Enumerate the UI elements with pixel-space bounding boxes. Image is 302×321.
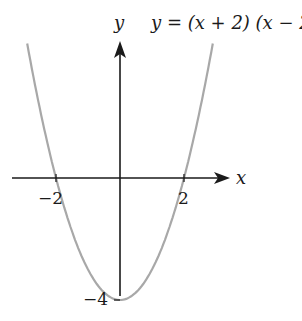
parabola-chart: y y = (x + 2) (x − 2) x −2 2 −4 <box>0 0 302 321</box>
tick-label-neg4: −4 <box>83 289 108 309</box>
x-axis-label: x <box>236 167 246 188</box>
y-axis-label: y <box>113 12 125 33</box>
tick-label-neg2: −2 <box>38 188 63 208</box>
equation-label: y = (x + 2) (x − 2) <box>150 12 302 33</box>
tick-label-pos2: 2 <box>178 188 189 208</box>
